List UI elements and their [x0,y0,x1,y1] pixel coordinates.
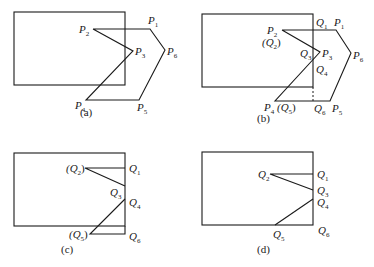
panel-caption: (b) [257,112,270,125]
polygon-edge [275,199,313,225]
vertex-label: (Q2) [262,36,281,51]
panel-d: Q2Q1Q3Q4Q5Q6(d) [202,152,330,256]
panel-caption: (a) [80,106,93,119]
panel-caption: (d) [257,243,270,256]
vertex-label: Q5 [273,228,285,243]
vertex-label: P6 [166,45,178,60]
vertex-label: Q4 [129,196,141,211]
vertex-label: P2 [78,23,90,38]
vertex-label: Q1 [316,16,328,31]
vertex-label: Q3 [110,186,122,201]
vertex-label: P5 [136,101,148,116]
vertex-label: Q1 [129,162,141,177]
vertex-label: (Q5) [277,101,296,116]
vertex-label: (Q2) [66,162,85,177]
vertex-label: Q6 [129,230,141,245]
vertex-label: (Q5) [69,228,88,243]
vertex-label: P3 [321,47,333,62]
polygon-edge [90,199,125,234]
polygon-clipping-figure: P1P2P3P6P4P5(a) Q1P1P2(Q2)Q3P3P6Q4P4(Q5)… [0,0,374,267]
clip-window-rect [202,14,313,87]
vertex-label: Q6 [314,102,326,117]
panel-c: (Q2)Q1Q3Q4(Q5)Q6(c) [14,153,141,256]
vertex-label: Q6 [318,224,330,239]
vertex-label: Q3 [300,47,312,62]
polygon-edge [270,174,313,190]
clip-window-rect [14,12,125,85]
vertex-label: Q4 [316,63,328,78]
vertex-label: P1 [147,14,159,29]
clip-window-rect [202,152,313,225]
panel-caption: (c) [61,243,74,256]
vertex-label: Q2 [258,168,270,183]
vertex-label: P5 [331,102,343,117]
vertex-label: P3 [134,45,146,60]
vertex-label: P6 [352,49,364,64]
panel-b: Q1P1P2(Q2)Q3P3P6Q4P4(Q5)Q6P5(b) [202,14,364,125]
polygon-edge [85,168,125,186]
vertex-label: P1 [333,16,345,31]
vertex-label: Q1 [317,168,329,183]
panel-a: P1P2P3P6P4P5(a) [14,12,178,119]
